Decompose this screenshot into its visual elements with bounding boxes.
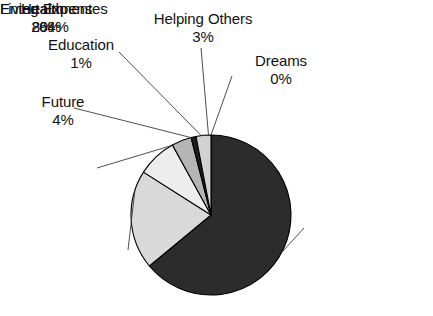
slice-label-dreams: Dreams 0% [229, 52, 333, 88]
slice-label-future: Future 4% [18, 93, 108, 129]
slice-label-living-expenses-value: 64% [0, 18, 108, 36]
slice-label-education-category: Education [26, 36, 136, 54]
slice-label-helping-others: Helping Others 3% [139, 10, 267, 46]
slice-label-dreams-category: Dreams [229, 52, 333, 70]
slice-label-future-value: 4% [18, 111, 108, 129]
pie-slices [131, 135, 291, 295]
slice-label-living-expenses-category: Living Expenses [0, 0, 108, 18]
slice-label-education-value: 1% [26, 54, 136, 72]
slice-label-helping-others-category: Helping Others [139, 10, 267, 28]
slice-label-helping-others-value: 3% [139, 28, 267, 46]
pie-chart-figure: Helping Others 3% Education 1% Dreams 0%… [0, 0, 433, 316]
slice-label-education: Education 1% [26, 36, 136, 72]
slice-label-future-category: Future [18, 93, 108, 111]
slice-label-living-expenses: Living Expenses 64% [0, 0, 108, 36]
slice-label-dreams-value: 0% [229, 70, 333, 88]
leader-line-helping-others [201, 48, 208, 135]
